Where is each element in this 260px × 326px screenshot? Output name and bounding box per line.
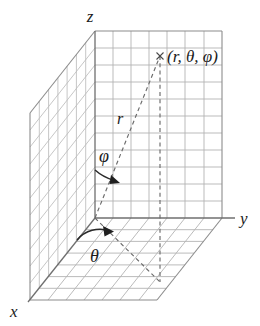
left-wall-receding-grid (30, 48, 95, 283)
polar-angle-label: φ (99, 146, 109, 166)
radius-line (95, 56, 160, 218)
coordinate-system-diagram: z y x r φ θ (r, θ, φ) (0, 0, 260, 326)
left-wall-vertical-grid (39, 43, 85, 289)
z-axis-label: z (86, 7, 94, 26)
radius-label: r (117, 110, 124, 127)
y-axis-label: y (238, 209, 248, 228)
point-coordinates-label: (r, θ, φ) (167, 47, 218, 66)
coordinate-construction-lines (95, 56, 160, 282)
polar-angle-arc (95, 170, 120, 184)
x-axis (28, 218, 95, 302)
polar-angle-arrowhead (110, 175, 121, 184)
azimuth-angle-label: θ (90, 246, 99, 266)
spherical-coordinates-figure: z y x r φ θ (r, θ, φ) (0, 0, 260, 326)
x-axis-label: x (9, 302, 18, 321)
